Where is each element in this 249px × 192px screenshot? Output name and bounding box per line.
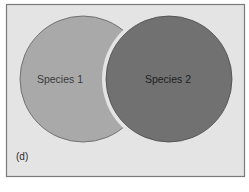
species-2-label: Species 2 <box>145 73 191 85</box>
panel-label: (d) <box>16 151 28 162</box>
venn-diagram: Species 1 Species 2 (d) <box>0 0 249 192</box>
species-1-label: Species 1 <box>37 73 83 85</box>
